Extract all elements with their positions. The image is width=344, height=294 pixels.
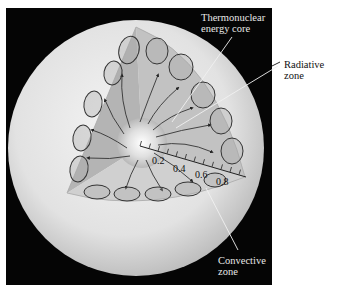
scale-tick-label: 0.6 [195, 169, 208, 180]
radiative-zone-label: Radiative zone [284, 59, 324, 81]
star-cross-section-diagram: 0.2 0.4 0.6 0.8 [0, 0, 344, 294]
radiative-label-line2: zone [284, 70, 324, 81]
scale-tick-label: 0.2 [152, 155, 165, 166]
core-label-line2: energy core [201, 23, 265, 34]
radiative-label-line1: Radiative [284, 59, 324, 70]
convective-label-line1: Convective [218, 255, 266, 266]
convective-zone-label: Convective zone [218, 255, 266, 277]
core-label: Thermonuclear energy core [201, 12, 265, 34]
scale-tick-label: 0.8 [216, 176, 229, 187]
scale-tick-label: 0.4 [173, 163, 186, 174]
core-label-line1: Thermonuclear [201, 12, 265, 23]
convective-label-line2: zone [218, 266, 266, 277]
